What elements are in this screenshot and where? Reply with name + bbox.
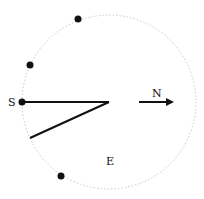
label-e: E (106, 155, 114, 168)
point-s (19, 99, 26, 106)
point-bottom (58, 173, 65, 180)
point-upper-left (27, 62, 34, 69)
segment-center-to-lower-left (30, 102, 109, 138)
label-n: N (152, 87, 162, 100)
geometry-diagram: S N E (0, 0, 204, 199)
label-s: S (8, 96, 16, 109)
point-top (75, 16, 82, 23)
